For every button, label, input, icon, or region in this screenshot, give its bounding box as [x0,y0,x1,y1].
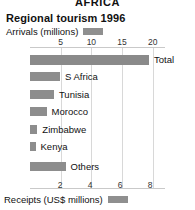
legend-arrivals: Arrivals (millions) [6,26,103,37]
chart-canvas: AFRICA Regional tourism 1996 Arrivals (m… [0,0,195,210]
bottom-tick-4: 4 [88,180,93,190]
bar-row: Tunisia [30,89,89,100]
region-header-text: AFRICA [0,0,195,8]
top-tick-10: 10 [87,37,96,47]
page-title: Regional tourism 1996 [6,12,125,24]
bar-row: Morocco [30,106,88,117]
top-tick-20: 20 [148,37,157,47]
legend-receipts: Receipts (US$ millions) [4,194,128,205]
bar-label-zimbabwe: Zimbabwe [42,124,86,135]
bar-s-africa [30,72,60,81]
bar-zimbabwe [30,125,37,134]
bar-label-morocco: Morocco [52,106,88,117]
bar-others [30,162,66,171]
plot-bottom-border [30,188,165,189]
bottom-tick-2: 2 [58,180,63,190]
bar-label-others: Others [71,161,100,172]
bar-total [30,55,149,65]
bar-label-s-africa: S Africa [65,71,98,82]
bar-row: Kenya [30,141,67,152]
bar-morocco [30,107,47,116]
arrivals-swatch [83,28,103,35]
legend-arrivals-label: Arrivals (millions) [6,26,78,37]
bar-row: Total [30,54,174,65]
region-header: AFRICA [0,0,195,11]
bar-label-kenya: Kenya [41,141,68,152]
legend-receipts-label: Receipts (US$ millions) [4,194,103,205]
bar-kenya [30,142,36,151]
gridline-15 [122,48,123,188]
top-tick-15: 15 [117,37,126,47]
bar-row: Others [30,161,99,172]
gridline-20 [153,48,154,188]
bar-label-tunisia: Tunisia [59,89,89,100]
bar-tunisia [30,90,54,99]
receipts-swatch [108,196,128,203]
bottom-tick-6: 6 [118,180,123,190]
bar-row: Zimbabwe [30,124,86,135]
top-tick-5: 5 [58,37,63,47]
bar-row: S Africa [30,71,98,82]
bottom-tick-8: 8 [148,180,153,190]
bar-label-total: Total [154,54,174,65]
